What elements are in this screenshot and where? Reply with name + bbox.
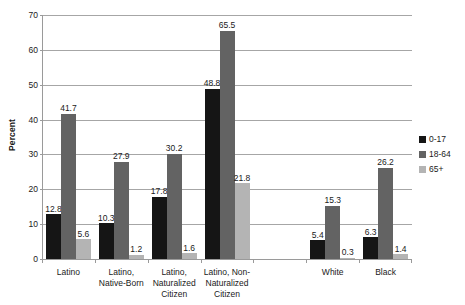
bar[interactable]: 30.2	[167, 154, 182, 259]
bar-slot: 15.3	[325, 15, 340, 259]
bar[interactable]: 26.2	[378, 168, 393, 259]
bar-slot	[272, 15, 287, 259]
bar-slot: 30.2	[167, 15, 182, 259]
bar-value-label: 5.4	[312, 231, 324, 240]
bar-slot: 5.6	[76, 15, 91, 259]
y-axis-title: Percent	[7, 105, 17, 165]
bar-group: 48.865.521.8	[201, 15, 254, 259]
legend-label: 0-17	[429, 134, 446, 144]
y-tick-label: 30	[29, 149, 38, 159]
x-tick-text: Latino, Naturalized Citizen	[153, 267, 196, 299]
bar-value-label: 17.8	[151, 187, 168, 196]
bar[interactable]: 65.5	[220, 31, 235, 259]
bar[interactable]: 48.8	[205, 89, 220, 259]
bar-value-label: 48.8	[204, 79, 221, 88]
x-tick-mark	[359, 259, 360, 263]
legend-swatch-icon	[419, 151, 426, 158]
bar-slot: 1.6	[182, 15, 197, 259]
bar-slot: 27.9	[114, 15, 129, 259]
legend-label: 65+	[429, 164, 443, 174]
legend-swatch-icon	[419, 136, 426, 143]
y-tick-label: 40	[29, 115, 38, 125]
y-tick-label: 10	[29, 219, 38, 229]
bar-value-label: 5.6	[78, 230, 90, 239]
x-tick-text: Black	[375, 267, 396, 277]
bar-slot: 1.2	[129, 15, 144, 259]
bar-group: 10.327.91.2	[95, 15, 148, 259]
x-tick-mark	[42, 259, 43, 263]
legend-item-0-17[interactable]: 0-17	[419, 134, 451, 144]
bar-value-label: 26.2	[377, 158, 394, 167]
legend-item-65+[interactable]: 65+	[419, 164, 451, 174]
bar[interactable]: 21.8	[235, 183, 250, 259]
bar-slot	[257, 15, 272, 259]
bar-value-label: 21.8	[234, 174, 251, 183]
bar-value-label: 41.7	[60, 104, 77, 113]
bar-value-label: 65.5	[219, 21, 236, 30]
bars-container	[253, 15, 306, 259]
bars-container: 12.841.75.6	[42, 15, 95, 259]
bar-value-label: 12.8	[45, 205, 62, 214]
y-tick-label: 60	[29, 45, 38, 55]
bar-value-label: 6.3	[365, 228, 377, 237]
x-tick-mark	[253, 259, 254, 263]
bars-container: 5.415.30.3	[306, 15, 359, 259]
x-tick-label: Black	[359, 259, 412, 300]
x-tick-text: Latino, Native-Born	[99, 267, 144, 288]
x-tick-label: Latino, Non-Naturalized Citizen	[201, 259, 254, 300]
y-tick-label: 20	[29, 184, 38, 194]
x-tick-label: White	[306, 259, 359, 300]
bar-value-label: 1.4	[395, 245, 407, 254]
bar-slot: 65.5	[220, 15, 235, 259]
bar-value-label: 1.6	[183, 244, 195, 253]
x-tick-label: Latino, Naturalized Citizen	[148, 259, 201, 300]
legend-item-18-64[interactable]: 18-64	[419, 149, 451, 159]
bar-slot: 0.3	[340, 15, 355, 259]
y-tick-label: 50	[29, 80, 38, 90]
bars-container: 17.830.21.6	[148, 15, 201, 259]
bar-group	[253, 15, 306, 259]
bar-slot: 48.8	[205, 15, 220, 259]
bar-chart: Percent 010203040506070 12.841.75.610.32…	[0, 0, 465, 305]
bar[interactable]: 15.3	[325, 206, 340, 259]
x-tick-text: Latino	[57, 267, 80, 277]
legend-swatch-icon	[419, 166, 426, 173]
bar-group: 12.841.75.6	[42, 15, 95, 259]
bar-value-label: 1.2	[130, 245, 142, 254]
bar-slot: 5.4	[310, 15, 325, 259]
bar-slot: 12.8	[46, 15, 61, 259]
x-tick-mark	[201, 259, 202, 263]
bar[interactable]: 27.9	[114, 162, 129, 259]
bar[interactable]: 5.6	[76, 239, 91, 259]
bar-groups: 12.841.75.610.327.91.217.830.21.648.865.…	[42, 15, 412, 259]
bar-slot: 6.3	[363, 15, 378, 259]
bar-slot: 41.7	[61, 15, 76, 259]
bars-container: 6.326.21.4	[359, 15, 412, 259]
bar-slot	[287, 15, 302, 259]
x-tick-text: Latino, Non-Naturalized Citizen	[204, 267, 250, 299]
bar[interactable]: 5.4	[310, 240, 325, 259]
bar[interactable]: 41.7	[61, 114, 76, 259]
bar-value-label: 0.3	[342, 248, 354, 257]
bar-value-label: 15.3	[324, 196, 341, 205]
bar-slot: 10.3	[99, 15, 114, 259]
x-tick-mark	[95, 259, 96, 263]
bar[interactable]: 10.3	[99, 223, 114, 259]
bar-value-label: 27.9	[113, 152, 130, 161]
x-tick-label: Latino	[42, 259, 95, 300]
bar[interactable]: 6.3	[363, 237, 378, 259]
legend-label: 18-64	[429, 149, 451, 159]
bar[interactable]: 17.8	[152, 197, 167, 259]
x-tick-mark	[306, 259, 307, 263]
bar-group: 17.830.21.6	[148, 15, 201, 259]
bar-slot: 1.4	[393, 15, 408, 259]
bar-slot: 21.8	[235, 15, 250, 259]
bar[interactable]: 12.8	[46, 214, 61, 259]
x-tick-label: Latino, Native-Born	[95, 259, 148, 300]
bar-value-label: 30.2	[166, 144, 183, 153]
x-tick-label	[253, 259, 306, 300]
bar-group: 5.415.30.3	[306, 15, 359, 259]
y-tick-label: 0	[33, 254, 38, 264]
chart-legend: 0-1718-6465+	[419, 134, 451, 174]
bars-container: 48.865.521.8	[201, 15, 254, 259]
